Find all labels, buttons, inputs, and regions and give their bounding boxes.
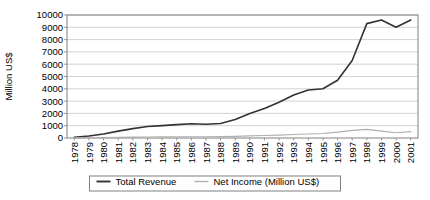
x-axis-tick-label: 1994	[303, 142, 314, 163]
y-axis-tick-label: 6000	[42, 59, 63, 70]
y-axis-tick-label: 8000	[42, 34, 63, 45]
legend-label-0: Total Revenue	[116, 176, 177, 187]
y-axis-tick-label: 10000	[37, 9, 63, 20]
x-axis-tick-label: 1991	[259, 142, 270, 163]
x-axis-tick-label: 1978	[69, 142, 80, 163]
x-axis-tick-label: 1989	[230, 142, 241, 163]
x-axis-tick-label: 1996	[332, 142, 343, 163]
x-axis-tick-label: 1992	[274, 142, 285, 163]
x-axis-tick-label: 1982	[127, 142, 138, 163]
x-axis-tick-label: 1998	[361, 142, 372, 163]
x-axis-tick-label: 1990	[244, 142, 255, 163]
x-axis-tick-label: 2000	[391, 142, 402, 163]
x-axis-tick-label: 1993	[288, 142, 299, 163]
x-axis-tick-label: 1984	[157, 142, 168, 163]
y-axis-tick-labels: 0100020003000400050006000700080009000100…	[37, 9, 67, 143]
x-axis-tick-label: 1999	[376, 142, 387, 163]
y-axis-title: Million US$	[3, 52, 14, 101]
x-axis-tick-label: 1997	[347, 142, 358, 163]
revenue-line-chart: 0100020003000400050006000700080009000100…	[0, 0, 430, 200]
legend-label-1: Net Income (Million US$)	[214, 176, 320, 187]
x-axis-tick-label: 1983	[142, 142, 153, 163]
x-axis-tick-label: 1995	[318, 142, 329, 163]
y-axis-tick-label: 2000	[42, 108, 63, 119]
y-axis-tick-label: 1000	[42, 120, 63, 131]
x-axis-tick-label: 1981	[113, 142, 124, 163]
y-axis-tick-label: 5000	[42, 71, 63, 82]
y-axis-tick-label: 9000	[42, 22, 63, 33]
y-axis-tick-label: 4000	[42, 83, 63, 94]
y-axis-tick-label: 3000	[42, 96, 63, 107]
x-axis-tick-label: 1986	[186, 142, 197, 163]
chart-container: 0100020003000400050006000700080009000100…	[0, 0, 430, 200]
y-axis-tick-label: 0	[58, 132, 63, 143]
x-axis-tick-label: 1988	[215, 142, 226, 163]
x-axis-tick-label: 1979	[84, 142, 95, 163]
chart-background	[0, 0, 430, 200]
x-axis-tick-label: 1987	[201, 142, 212, 163]
x-axis-tick-label: 2001	[405, 142, 416, 163]
x-axis-tick-label: 1980	[98, 142, 109, 163]
x-axis-tick-label: 1985	[171, 142, 182, 163]
y-axis-tick-label: 7000	[42, 46, 63, 57]
